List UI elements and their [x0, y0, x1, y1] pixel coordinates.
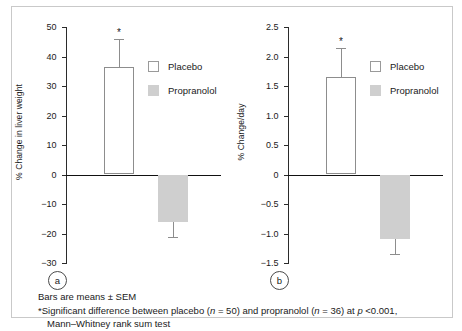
y-tick-label-b-4: 0.5	[266, 140, 279, 150]
y-tick-a-3: 20	[62, 116, 67, 117]
y-tick-label-a-6: −10	[41, 199, 56, 209]
error-bar-b-propranolol	[395, 239, 396, 254]
y-tick-label-a-5: 0	[51, 170, 56, 180]
y-tick-b-4: 0.5	[284, 145, 289, 146]
legend-swatch-placebo-icon	[148, 61, 159, 72]
error-cap-a-propranolol	[168, 237, 178, 238]
y-tick-label-b-0: 2.5	[266, 22, 279, 32]
caption-n1-value: = 50) and propranolol (	[215, 305, 314, 316]
legend-item-propranolol: Propranolol	[370, 85, 439, 96]
legend-item-placebo: Placebo	[148, 61, 217, 72]
significance-marker-b: *	[339, 37, 343, 47]
caption-sig-prefix: *Significant difference between placebo …	[38, 305, 210, 316]
panel-letter-a: a	[48, 271, 67, 290]
zero-baseline-b	[288, 175, 443, 177]
y-tick-label-b-3: 1.0	[266, 111, 279, 121]
y-tick-label-b-8: −1.5	[261, 258, 279, 268]
zero-baseline-a	[66, 175, 221, 177]
error-cap-b-propranolol	[390, 254, 400, 255]
caption-significance: *Significant difference between placebo …	[38, 304, 448, 318]
y-tick-label-b-5: 0	[273, 170, 278, 180]
legend-item-propranolol: Propranolol	[148, 85, 217, 96]
legend-swatch-placebo-icon	[370, 61, 381, 72]
y-tick-b-3: 1.0	[284, 116, 289, 117]
legend-swatch-propranolol-icon	[370, 85, 381, 96]
error-cap-a-placebo	[114, 39, 124, 40]
y-axis-label-b: % Change/day	[234, 7, 248, 257]
significance-marker-a: *	[117, 28, 121, 38]
figure-frame: % Change in liver weight 50403020100−10−…	[11, 6, 453, 318]
legend-label-propranolol: Propranolol	[168, 85, 217, 96]
error-bar-b-placebo	[341, 48, 342, 78]
legend-b: Placebo Propranolol	[370, 61, 439, 109]
caption-means-sem: Bars are means ± SEM	[38, 290, 448, 304]
y-tick-b-1: 2.0	[284, 57, 289, 58]
bar-a-propranolol	[158, 175, 188, 222]
y-tick-label-a-1: 40	[46, 52, 56, 62]
error-cap-b-placebo	[336, 48, 346, 49]
legend-item-placebo: Placebo	[370, 61, 439, 72]
y-tick-label-a-7: −20	[41, 229, 56, 239]
panel-letter-b: b	[270, 271, 289, 290]
y-tick-a-4: 10	[62, 145, 67, 146]
bar-b-placebo	[326, 77, 356, 174]
y-tick-label-a-3: 20	[46, 111, 56, 121]
y-tick-b-6: −0.5	[284, 204, 289, 205]
caption-p-value: <0.001,	[363, 305, 398, 316]
y-tick-a-8: −30	[62, 263, 67, 264]
y-tick-a-7: −20	[62, 234, 67, 235]
y-tick-a-2: 30	[62, 86, 67, 87]
error-bar-a-placebo	[119, 39, 120, 67]
error-bar-a-propranolol	[173, 222, 174, 237]
y-tick-label-a-8: −30	[41, 258, 56, 268]
caption-test-name: Mann–Whitney rank sum test	[38, 317, 457, 331]
y-tick-label-a-2: 30	[46, 81, 56, 91]
legend-a: Placebo Propranolol	[148, 61, 217, 109]
y-tick-label-b-6: −0.5	[261, 199, 279, 209]
y-tick-a-6: −10	[62, 204, 67, 205]
y-tick-b-7: −1.0	[284, 234, 289, 235]
y-tick-label-b-1: 2.0	[266, 52, 279, 62]
bar-b-propranolol	[380, 175, 410, 240]
y-tick-label-a-0: 50	[46, 22, 56, 32]
y-tick-label-b-2: 1.5	[266, 81, 279, 91]
legend-label-placebo: Placebo	[168, 61, 202, 72]
bar-a-placebo	[104, 67, 134, 175]
y-axis-label-a: % Change in liver weight	[12, 7, 26, 257]
caption-n2-value: = 36) at	[320, 305, 358, 316]
y-tick-b-2: 1.5	[284, 86, 289, 87]
chart-panel-b: % Change/day 2.52.01.51.00.50−0.5−1.0−1.…	[236, 7, 455, 269]
legend-label-placebo: Placebo	[390, 61, 424, 72]
y-tick-label-a-4: 10	[46, 140, 56, 150]
chart-panel-a: % Change in liver weight 50403020100−10−…	[14, 7, 233, 269]
y-tick-a-0: 50	[62, 27, 67, 28]
y-tick-b-0: 2.5	[284, 27, 289, 28]
y-tick-a-1: 40	[62, 57, 67, 58]
y-tick-b-8: −1.5	[284, 263, 289, 264]
legend-swatch-propranolol-icon	[148, 85, 159, 96]
legend-label-propranolol: Propranolol	[390, 85, 439, 96]
y-tick-label-b-7: −1.0	[261, 229, 279, 239]
